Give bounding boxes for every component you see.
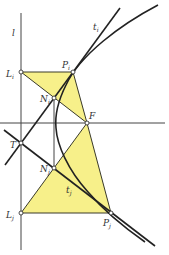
triangle-j	[21, 123, 111, 213]
point-T	[19, 141, 23, 145]
point-Li	[19, 70, 23, 74]
point-Ni	[52, 96, 56, 100]
point-F	[85, 121, 89, 125]
parabola-tangent-diagram: l ti Li Pi Ni F T Nj tj Lj Pj	[0, 0, 169, 255]
label-Nj: Nj	[39, 164, 50, 176]
label-Li: Li	[5, 69, 14, 80]
label-tangent-i: ti	[93, 22, 99, 33]
label-directrix: l	[12, 28, 15, 38]
label-Pi: Pi	[61, 60, 70, 71]
label-T: T	[10, 140, 17, 150]
label-Pj: Pj	[102, 218, 111, 230]
label-Ni: Ni	[39, 94, 50, 105]
point-Pi	[71, 70, 75, 74]
label-Lj: Lj	[5, 210, 14, 222]
point-Lj	[19, 211, 23, 215]
label-F: F	[88, 111, 96, 121]
point-Nj	[52, 166, 56, 170]
point-Pj	[109, 211, 113, 215]
